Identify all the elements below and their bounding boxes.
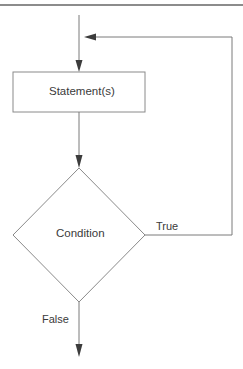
true-branch-label: True bbox=[156, 220, 178, 232]
statement-to-condition-arrow bbox=[76, 112, 83, 168]
entry-arrow bbox=[76, 15, 83, 72]
flowchart-canvas bbox=[0, 0, 243, 369]
false-exit-arrow bbox=[76, 302, 83, 357]
condition-label: Condition bbox=[56, 227, 105, 239]
false-branch-label: False bbox=[42, 313, 69, 325]
statement-label: Statement(s) bbox=[49, 85, 115, 97]
